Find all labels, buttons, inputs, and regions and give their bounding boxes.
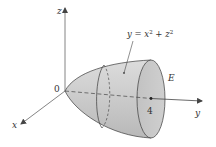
- x-axis-label: x: [12, 120, 17, 130]
- equation-leader-dot: [123, 72, 125, 74]
- y-tick-4-label: 4: [147, 106, 153, 116]
- y-tick-4-dot: [150, 97, 153, 100]
- x-axis: [21, 91, 65, 124]
- paraboloid-figure: z x y 0 4 E y = x2 + z2: [0, 0, 216, 147]
- equation-eq: =: [132, 29, 145, 39]
- equation-plus: +: [153, 29, 166, 39]
- y-axis-label: y: [194, 108, 201, 118]
- surface-equation: y = x2 + z2: [126, 29, 173, 40]
- z-axis-label: z: [56, 6, 62, 16]
- equation-z-exp: 2: [170, 29, 174, 35]
- origin-label: 0: [54, 84, 60, 94]
- region-label-E: E: [167, 73, 175, 83]
